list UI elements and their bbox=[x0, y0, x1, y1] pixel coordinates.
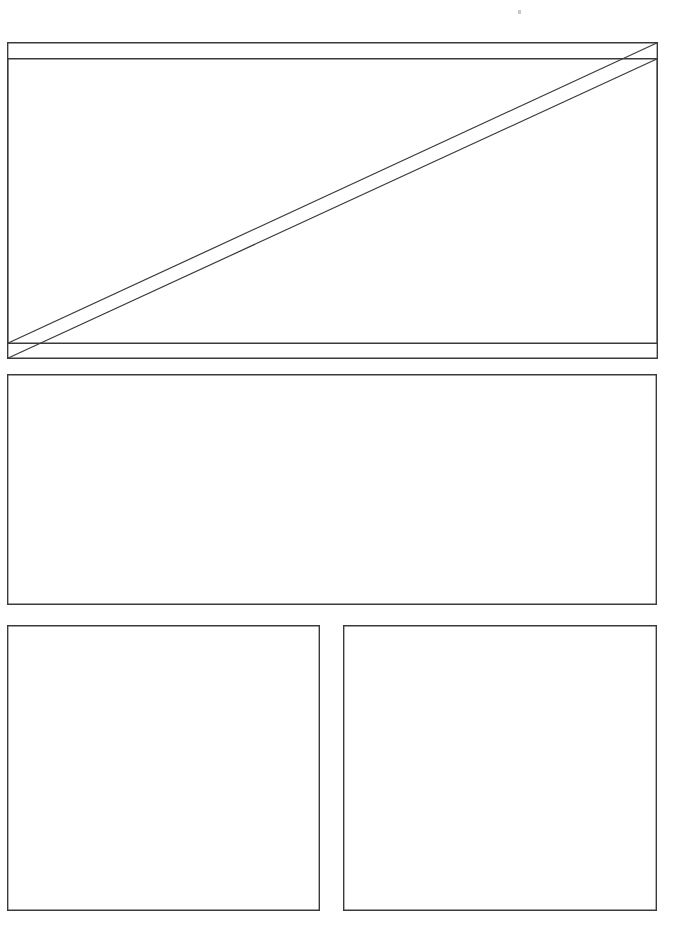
panel-group-top[interactable] bbox=[8, 43, 658, 359]
panel-4[interactable] bbox=[344, 626, 657, 911]
speck-mark bbox=[518, 10, 521, 14]
panel-3[interactable] bbox=[8, 626, 320, 911]
panel-1-front-diagonal bbox=[8, 43, 658, 344]
panel-1-back-diagonal bbox=[8, 59, 658, 359]
panel-1-back[interactable] bbox=[8, 59, 658, 359]
panel-layout-svg bbox=[0, 0, 692, 946]
panel-2[interactable] bbox=[8, 375, 657, 605]
diagram-canvas bbox=[0, 0, 692, 946]
panel-3-outline[interactable] bbox=[8, 626, 320, 911]
panel-2-outline[interactable] bbox=[8, 375, 657, 605]
panel-1-front[interactable] bbox=[8, 43, 658, 344]
panel-4-outline[interactable] bbox=[344, 626, 657, 911]
